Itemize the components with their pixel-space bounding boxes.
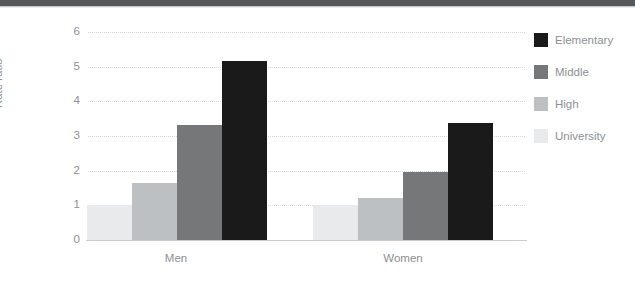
top-banner-shadow bbox=[0, 6, 635, 8]
legend-label-university: University bbox=[555, 130, 605, 143]
y-tick-4: 4 bbox=[50, 96, 80, 108]
legend-label-elementary: Elementary bbox=[555, 34, 613, 47]
legend-swatch-middle bbox=[534, 65, 548, 79]
x-category-label-women: Women bbox=[383, 252, 422, 264]
bar-women-university bbox=[313, 205, 358, 240]
legend-item-university[interactable]: University bbox=[534, 129, 635, 143]
y-tick-0: 0 bbox=[50, 234, 80, 246]
legend-swatch-elementary bbox=[534, 33, 548, 47]
legend-label-middle: Middle bbox=[555, 66, 589, 79]
bar-women-elementary bbox=[448, 123, 493, 240]
y-tick-6: 6 bbox=[50, 26, 80, 38]
chart-legend: Elementary Middle High University bbox=[534, 33, 635, 161]
bar-women-middle bbox=[403, 172, 448, 240]
bar-women-high bbox=[358, 198, 403, 240]
x-category-label-men: Men bbox=[165, 252, 187, 264]
legend-swatch-high bbox=[534, 97, 548, 111]
bar-chart-figure: Rate ratio 6 5 4 3 2 1 0 Men Women Eleme… bbox=[0, 0, 635, 283]
bar-men-high bbox=[132, 183, 177, 240]
legend-item-middle[interactable]: Middle bbox=[534, 65, 635, 79]
y-tick-2: 2 bbox=[50, 165, 80, 177]
y-axis-tick-labels: 6 5 4 3 2 1 0 bbox=[46, 32, 80, 240]
y-tick-1: 1 bbox=[50, 200, 80, 212]
bar-men-elementary bbox=[222, 61, 267, 240]
x-axis-baseline bbox=[86, 240, 527, 241]
plot-area bbox=[88, 32, 525, 240]
y-tick-5: 5 bbox=[50, 61, 80, 73]
y-tick-3: 3 bbox=[50, 130, 80, 142]
bar-men-university bbox=[87, 205, 132, 240]
gridline-6 bbox=[88, 32, 525, 33]
legend-item-high[interactable]: High bbox=[534, 97, 635, 111]
gridline-5 bbox=[88, 67, 525, 68]
y-axis-title: Rate ratio bbox=[0, 58, 4, 108]
gridline-4 bbox=[88, 101, 525, 102]
legend-item-elementary[interactable]: Elementary bbox=[534, 33, 635, 47]
bar-men-middle bbox=[177, 125, 222, 240]
legend-label-high: High bbox=[555, 98, 579, 111]
legend-swatch-university bbox=[534, 129, 548, 143]
